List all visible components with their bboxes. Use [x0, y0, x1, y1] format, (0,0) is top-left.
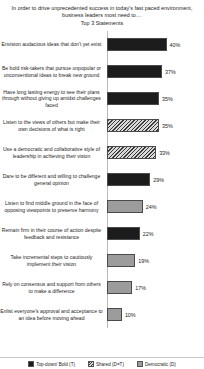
bar-value-label: 40% — [170, 42, 181, 48]
bar-row: Be bold risk-takers that pursue unpopula… — [0, 58, 204, 85]
bar-row: Rely on consensus and support from other… — [0, 274, 204, 301]
bar-row: Listen to the views of others but make t… — [0, 112, 204, 139]
legend-swatch-democratic-icon — [137, 361, 143, 367]
bar-democratic[interactable] — [107, 200, 143, 213]
bar-category-label: Have long lasting energy to see their pl… — [0, 89, 107, 109]
chart-legend: Top-down/ Bold (T) Shared (D=T) Democrat… — [0, 357, 204, 367]
bar-row: Listen to find middle ground in the face… — [0, 193, 204, 220]
chart-subtitle: Top 3 Statements — [9, 20, 195, 27]
legend-label-democratic: Democratic (D) — [145, 362, 176, 367]
legend-item-democratic: Democratic (D) — [137, 361, 176, 367]
bar-topdown[interactable] — [107, 38, 167, 51]
bar-value-label: 17% — [135, 285, 146, 291]
bar-row: Use a democratic and collaborative style… — [0, 139, 204, 166]
bar-value-label: 19% — [138, 258, 149, 264]
bar-value-label: 33% — [159, 150, 170, 156]
bar-shared[interactable] — [107, 119, 159, 132]
bar-rows: Envision audacious ideas that don't yet … — [0, 31, 204, 328]
bar-track: 29% — [107, 166, 204, 193]
legend-item-shared: Shared (D=T) — [88, 361, 124, 367]
bar-value-label: 35% — [162, 96, 173, 102]
bar-category-label: Listen to the views of others but make t… — [0, 119, 107, 132]
bar-category-label: Use a democratic and collaborative style… — [0, 146, 107, 159]
bar-track: 40% — [107, 31, 204, 58]
legend-label-shared: Shared (D=T) — [96, 362, 124, 367]
bar-row: Have long lasting energy to see their pl… — [0, 85, 204, 112]
bar-category-label: Remain firm in their course of action de… — [0, 227, 107, 240]
chart-title-main: In order to drive unprecedented success … — [12, 5, 193, 18]
bar-topdown[interactable] — [107, 92, 159, 105]
bar-democratic[interactable] — [107, 308, 122, 321]
bar-track: 19% — [107, 247, 204, 274]
bar-row: Dare to be different and willing to chal… — [0, 166, 204, 193]
bar-value-label: 24% — [146, 204, 157, 210]
bar-category-label: Take incremental steps to cautiously imp… — [0, 254, 107, 267]
bar-track: 22% — [107, 220, 204, 247]
bar-row: Envision audacious ideas that don't yet … — [0, 31, 204, 58]
bar-row: Take incremental steps to cautiously imp… — [0, 247, 204, 274]
bar-track: 17% — [107, 274, 204, 301]
bar-category-label: Listen to find middle ground in the face… — [0, 200, 107, 213]
bar-track: 33% — [107, 139, 204, 166]
bar-track: 10% — [107, 301, 204, 328]
bar-row: Remain firm in their course of action de… — [0, 220, 204, 247]
bar-track: 35% — [107, 85, 204, 112]
bar-value-label: 29% — [153, 177, 164, 183]
bar-category-label: Enlist everyone's approval and acceptanc… — [0, 308, 107, 321]
bar-plot-area: Envision audacious ideas that don't yet … — [0, 31, 204, 328]
chart-container: In order to drive unprecedented success … — [0, 5, 204, 369]
bar-category-label: Be bold risk-takers that pursue unpopula… — [0, 65, 107, 78]
bar-democratic[interactable] — [107, 281, 132, 294]
legend-label-topdown: Top-down/ Bold (T) — [36, 362, 75, 367]
bar-category-label: Rely on consensus and support from other… — [0, 281, 107, 294]
legend-item-topdown: Top-down/ Bold (T) — [28, 361, 75, 367]
bar-topdown[interactable] — [107, 173, 150, 186]
bar-value-label: 10% — [125, 312, 136, 318]
bar-track: 24% — [107, 193, 204, 220]
bar-track: 35% — [107, 112, 204, 139]
legend-swatch-topdown-icon — [28, 361, 34, 367]
legend-swatch-shared-icon — [88, 361, 94, 367]
bar-category-label: Envision audacious ideas that don't yet … — [0, 41, 107, 48]
bar-value-label: 22% — [143, 231, 154, 237]
bar-topdown[interactable] — [107, 65, 162, 78]
bar-topdown[interactable] — [107, 227, 140, 240]
bar-shared[interactable] — [107, 146, 156, 159]
bar-value-label: 35% — [162, 123, 173, 129]
bar-category-label: Dare to be different and willing to chal… — [0, 173, 107, 186]
bar-value-label: 37% — [165, 69, 176, 75]
bar-row: Enlist everyone's approval and acceptanc… — [0, 301, 204, 328]
bar-track: 37% — [107, 58, 204, 85]
bar-democratic[interactable] — [107, 254, 135, 267]
chart-title: In order to drive unprecedented success … — [9, 5, 195, 27]
